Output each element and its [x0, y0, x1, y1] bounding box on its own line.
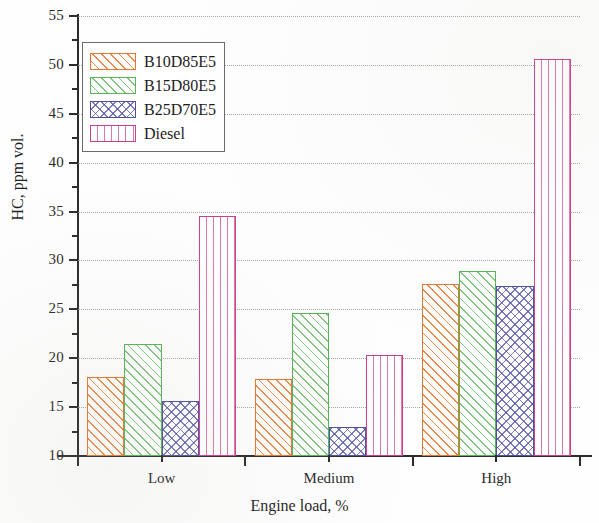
- legend-label: B15D80E5: [144, 77, 216, 94]
- y-tick-label: 15: [49, 399, 64, 414]
- legend-item-diesel: Diesel: [90, 121, 216, 145]
- bar-b15d80e5-low: [124, 344, 161, 456]
- x-tick-label-low: Low: [148, 470, 176, 486]
- legend-label: B10D85E5: [144, 53, 216, 70]
- y-axis-title: HC, ppm vol.: [9, 97, 27, 257]
- y-tick-label: 35: [49, 204, 64, 219]
- bar-diesel-medium: [366, 355, 403, 456]
- hc-emissions-bar-chart: 10152025303540455055 HC, ppm vol. LowMed…: [0, 0, 599, 523]
- x-tick-label-high: High: [481, 470, 511, 486]
- y-tick-label: 20: [49, 350, 64, 365]
- legend-swatch-diesel: [90, 125, 136, 142]
- y-tick-label: 50: [49, 57, 64, 72]
- x-axis-title: Engine load, %: [0, 497, 599, 515]
- legend-item-b15d80e5: B15D80E5: [90, 73, 216, 97]
- x-tick-minor: [161, 455, 163, 462]
- x-tick: [412, 455, 414, 466]
- bar-b10d85e5-high: [422, 284, 459, 456]
- y-tick-label: 45: [49, 106, 64, 121]
- bar-b15d80e5-high: [459, 271, 496, 456]
- y-axis-ticks: 10152025303540455055: [0, 0, 78, 523]
- bar-diesel-high: [534, 59, 571, 456]
- bar-b25d70e5-high: [496, 286, 533, 456]
- y-tick-label: 25: [49, 301, 64, 316]
- bar-diesel-low: [199, 216, 236, 456]
- bar-b10d85e5-medium: [255, 379, 292, 456]
- bar-b25d70e5-medium: [329, 427, 366, 456]
- legend: B10D85E5B15D80E5B25D70E5Diesel: [82, 42, 225, 152]
- legend-label: Diesel: [144, 125, 185, 142]
- bar-b25d70e5-low: [162, 401, 199, 456]
- x-tick-label-medium: Medium: [304, 470, 355, 486]
- legend-swatch-b15d80e5: [90, 77, 136, 94]
- grid-line: [78, 212, 580, 213]
- y-tick-label: 40: [49, 155, 64, 170]
- x-tick: [77, 455, 79, 466]
- bar-b15d80e5-medium: [292, 313, 329, 456]
- x-tick-minor: [495, 455, 497, 462]
- bar-b10d85e5-low: [87, 377, 124, 456]
- legend-item-b10d85e5: B10D85E5: [90, 49, 216, 73]
- legend-label: B25D70E5: [144, 101, 216, 118]
- y-tick-label: 55: [49, 8, 64, 23]
- grid-line: [78, 163, 580, 164]
- legend-swatch-b25d70e5: [90, 101, 136, 118]
- y-tick-label: 30: [49, 252, 64, 267]
- grid-line: [78, 260, 580, 261]
- legend-item-b25d70e5: B25D70E5: [90, 97, 216, 121]
- grid-line: [78, 16, 580, 17]
- x-tick: [244, 455, 246, 466]
- x-tick-minor: [328, 455, 330, 462]
- x-tick: [579, 455, 581, 466]
- legend-swatch-b10d85e5: [90, 53, 136, 70]
